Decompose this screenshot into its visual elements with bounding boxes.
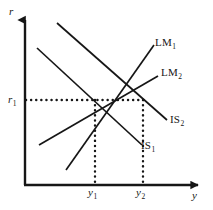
curve-label-is2-subscript: 2 xyxy=(180,119,184,128)
tick-label-y1-subscript: 1 xyxy=(93,192,97,201)
curve-label-lm1-base: LM xyxy=(155,36,172,48)
curve-is1 xyxy=(37,48,142,145)
curve-label-is2: IS2 xyxy=(170,114,184,125)
curve-label-is1-subscript: 1 xyxy=(151,145,155,154)
tick-label-r1: r1 xyxy=(8,94,16,105)
tick-label-r1-subscript: 1 xyxy=(13,99,17,108)
diagram-canvas xyxy=(0,0,213,210)
curve-lm2 xyxy=(39,76,158,145)
tick-label-y1: y1 xyxy=(88,187,97,198)
curve-label-is1: IS1 xyxy=(141,140,155,151)
tick-label-r1-base: r xyxy=(8,93,12,105)
horizontal-axis-label: y xyxy=(192,190,197,201)
is-lm-diagram: r y r1 y1 y2 LM1 LM2 IS2 IS1 xyxy=(0,0,213,210)
tick-label-y2-subscript: 2 xyxy=(141,192,145,201)
tick-label-y2: y2 xyxy=(136,187,145,198)
curve-label-lm2: LM2 xyxy=(161,67,182,78)
curve-lm1 xyxy=(66,45,154,170)
curve-label-is1-base: IS xyxy=(141,139,151,151)
curve-label-lm1-subscript: 1 xyxy=(172,42,176,51)
vertical-axis-label: r xyxy=(9,6,13,17)
curve-label-lm2-base: LM xyxy=(161,66,178,78)
curve-label-lm1: LM1 xyxy=(155,37,176,48)
curve-label-lm2-subscript: 2 xyxy=(178,72,182,81)
curve-label-is2-base: IS xyxy=(170,113,180,125)
